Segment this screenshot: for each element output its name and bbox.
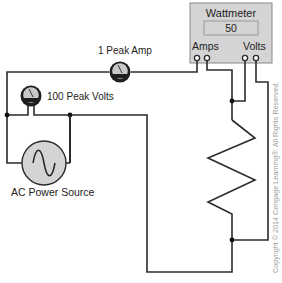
junction-node xyxy=(230,99,235,104)
volts-label: Volts xyxy=(243,40,266,52)
volts-terminal-1 xyxy=(242,55,247,60)
resistor xyxy=(208,120,255,225)
junction-node xyxy=(230,238,235,243)
wattmeter: Wattmeter 50 Amps Volts xyxy=(190,3,272,63)
wattmeter-title: Wattmeter xyxy=(206,7,257,19)
junction-node xyxy=(5,113,10,118)
source-label: AC Power Source xyxy=(11,186,95,198)
amps-terminal-2 xyxy=(204,55,209,60)
voltmeter-label: 100 Peak Volts xyxy=(47,91,114,102)
amps-terminal-1 xyxy=(194,55,199,60)
ammeter: 1 Peak Amp xyxy=(98,45,152,83)
volts-terminal-2 xyxy=(253,55,258,60)
wattmeter-reading: 50 xyxy=(225,22,237,34)
copyright-text: Copyright © 2014 Cengage Learning®. All … xyxy=(271,82,280,273)
voltmeter: 100 Peak Volts xyxy=(21,86,114,107)
circuit-diagram: Wattmeter 50 Amps Volts xyxy=(0,0,282,283)
ac-source: AC Power Source xyxy=(11,115,95,198)
amps-label: Amps xyxy=(192,40,219,52)
ammeter-label: 1 Peak Amp xyxy=(98,45,152,56)
